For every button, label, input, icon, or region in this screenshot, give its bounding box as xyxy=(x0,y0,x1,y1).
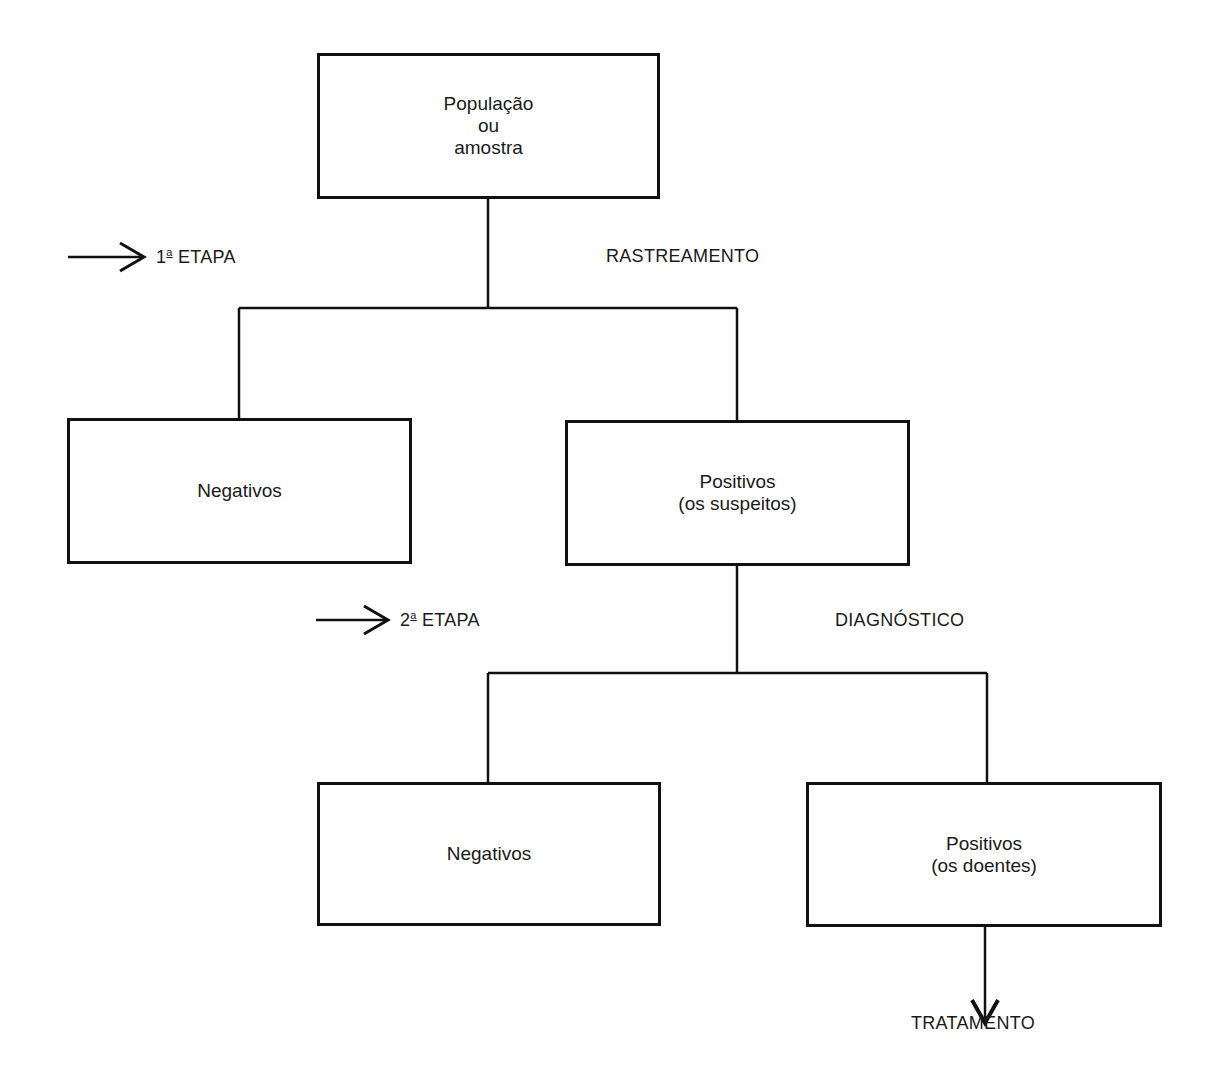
negatives-1-text: Negativos xyxy=(197,480,282,502)
root-line-2: ou xyxy=(444,115,534,137)
negatives-box-1: Negativos xyxy=(67,418,412,564)
positives-2-line-1: Positivos xyxy=(931,833,1037,855)
stage2-text: ETAPA xyxy=(422,610,480,630)
positives-2-line-2: (os doentes) xyxy=(931,855,1037,877)
treatment-label: TRATAMENTO xyxy=(911,1013,1035,1034)
root-line-3: amostra xyxy=(444,137,534,159)
stage1-ordinal: 1 xyxy=(156,247,166,267)
positives-1-line-2: (os suspeitos) xyxy=(678,493,796,515)
stage2-suffix: a xyxy=(410,609,416,621)
stage1-suffix: a xyxy=(166,246,172,258)
population-box: População ou amostra xyxy=(317,53,660,199)
negatives-2-text: Negativos xyxy=(447,843,532,865)
screening-label: RASTREAMENTO xyxy=(606,246,759,267)
negatives-box-2: Negativos xyxy=(317,782,661,926)
positives-sick-box: Positivos (os doentes) xyxy=(806,782,1162,927)
positives-suspects-box: Positivos (os suspeitos) xyxy=(565,420,910,566)
diagnosis-label: DIAGNÓSTICO xyxy=(835,610,964,631)
stage2-ordinal: 2 xyxy=(400,610,410,630)
stage2-label: 2a ETAPA xyxy=(400,609,480,631)
stage1-label: 1a ETAPA xyxy=(156,246,236,268)
stage1-text: ETAPA xyxy=(178,247,236,267)
root-line-1: População xyxy=(444,93,534,115)
positives-1-line-1: Positivos xyxy=(678,471,796,493)
